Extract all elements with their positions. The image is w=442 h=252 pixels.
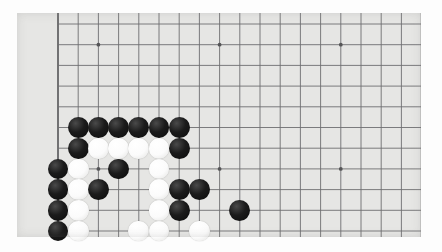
black-stone[interactable] [48, 179, 69, 200]
black-stone[interactable] [128, 117, 149, 138]
black-stone[interactable] [169, 138, 190, 159]
black-stone[interactable] [169, 179, 190, 200]
white-stone[interactable] [189, 221, 210, 242]
white-stone[interactable] [68, 200, 89, 221]
black-stone[interactable] [48, 221, 69, 242]
white-stone[interactable] [149, 138, 170, 159]
black-stone[interactable] [149, 117, 170, 138]
white-stone[interactable] [128, 138, 149, 159]
star-point [339, 167, 343, 171]
black-stone[interactable] [169, 200, 190, 221]
white-stone[interactable] [88, 138, 109, 159]
go-board-photo [0, 0, 442, 252]
black-stone[interactable] [169, 117, 190, 138]
black-stone[interactable] [108, 159, 129, 180]
white-stone[interactable] [68, 159, 89, 180]
white-stone[interactable] [68, 179, 89, 200]
star-point [339, 43, 343, 47]
white-stone[interactable] [128, 221, 149, 242]
black-stone[interactable] [68, 117, 89, 138]
star-point [218, 43, 222, 47]
black-stone[interactable] [88, 117, 109, 138]
star-point [97, 167, 101, 171]
go-board[interactable] [17, 13, 421, 237]
white-stone[interactable] [149, 200, 170, 221]
star-point [97, 43, 101, 47]
white-stone[interactable] [108, 138, 129, 159]
black-stone[interactable] [48, 200, 69, 221]
black-stone[interactable] [68, 138, 89, 159]
white-stone[interactable] [68, 221, 89, 242]
white-stone[interactable] [149, 179, 170, 200]
black-stone[interactable] [229, 200, 250, 221]
black-stone[interactable] [88, 179, 109, 200]
white-stone[interactable] [149, 221, 170, 242]
black-stone[interactable] [189, 179, 210, 200]
star-point [218, 167, 222, 171]
black-stone[interactable] [108, 117, 129, 138]
